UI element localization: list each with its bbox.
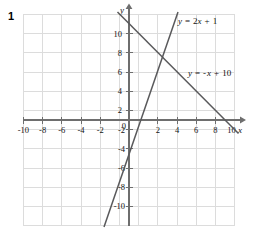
- equation-label-line-2: y=-x+10: [187, 68, 232, 78]
- x-tick-label: 2: [156, 125, 160, 135]
- eq2-y: y: [187, 68, 192, 78]
- problem-number: 1: [8, 10, 14, 22]
- eq2-plus: +: [214, 68, 219, 78]
- graph-figure: 1: [0, 0, 256, 245]
- eq2-eq: =: [195, 68, 200, 78]
- y-tick-label: 2: [118, 105, 122, 115]
- x-tick-label: -8: [39, 125, 46, 135]
- line-y-equals-neg-x-plus-10: [118, 12, 239, 134]
- eq2-neg: -: [203, 68, 206, 78]
- eq1-intercept: 1: [213, 16, 218, 26]
- equation-label-line-1: y=2x+1: [177, 16, 217, 26]
- eq1-x: x: [197, 16, 202, 26]
- y-tick-label: 8: [118, 48, 122, 58]
- y-tick-label: 10: [114, 29, 123, 39]
- eq1-y: y: [177, 16, 182, 26]
- x-tick-label: 6: [194, 125, 198, 135]
- x-tick-label: -4: [77, 125, 85, 135]
- y-tick-label: 6: [118, 67, 122, 77]
- y-tick-label: -4: [118, 144, 126, 154]
- eq1-plus: +: [205, 16, 210, 26]
- eq1-eq: =: [185, 16, 190, 26]
- eq2-intercept: 10: [222, 68, 232, 78]
- origin-label: 0: [122, 121, 126, 131]
- y-tick-label: -10: [114, 201, 125, 211]
- x-tick-label: -10: [18, 125, 29, 135]
- eq2-x: x: [206, 68, 211, 78]
- x-axis-arrow: [240, 117, 246, 124]
- x-tick-label: -2: [97, 125, 104, 135]
- x-tick-label: -6: [58, 125, 65, 135]
- x-tick-label: 8: [213, 125, 217, 135]
- axes: [23, 4, 246, 226]
- y-axis-arrow: [126, 4, 133, 10]
